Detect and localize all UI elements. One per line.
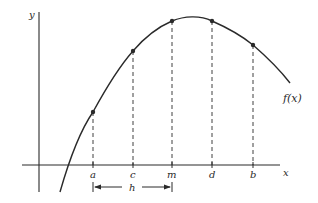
label-c: c xyxy=(130,169,136,180)
function-diagram: y x f(x) a c m d b h xyxy=(0,0,318,203)
label-d: d xyxy=(209,169,215,180)
point-b-marker xyxy=(251,43,255,47)
x-axis-label: x xyxy=(283,167,289,178)
interval-h-label: h xyxy=(129,182,135,193)
function-curve xyxy=(60,17,290,192)
point-a-marker xyxy=(91,110,95,114)
point-d-marker xyxy=(210,19,214,23)
arrowhead-right-icon xyxy=(164,185,171,190)
curve-points xyxy=(91,19,255,114)
dashed-guides xyxy=(93,21,253,165)
y-axis-label: y xyxy=(28,9,35,20)
label-a: a xyxy=(90,169,96,180)
arrowhead-left-icon xyxy=(94,185,101,190)
point-m-marker xyxy=(170,19,174,23)
label-b: b xyxy=(250,169,256,180)
point-c-marker xyxy=(131,49,135,53)
label-m: m xyxy=(167,169,176,180)
curve-label: f(x) xyxy=(282,92,302,105)
